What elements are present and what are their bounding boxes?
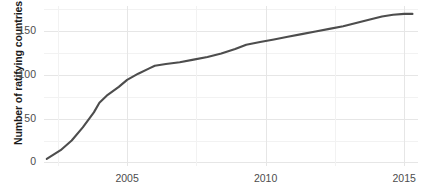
x-tick-label-2010: 2010	[236, 172, 296, 184]
series-line-ratifying-countries	[44, 6, 418, 166]
y-axis-tick-labels: 050100150	[0, 6, 44, 166]
plot-area	[44, 6, 418, 166]
x-tick-label-2015: 2015	[374, 172, 422, 184]
y-tick-label-100: 100	[0, 69, 36, 80]
y-tick-label-50: 50	[0, 113, 36, 124]
y-tick-label-150: 150	[0, 25, 36, 36]
line-chart: Number of ratifying countries 050100150 …	[0, 0, 422, 196]
x-tick-label-2005: 2005	[97, 172, 157, 184]
y-tick-label-0: 0	[0, 156, 36, 167]
